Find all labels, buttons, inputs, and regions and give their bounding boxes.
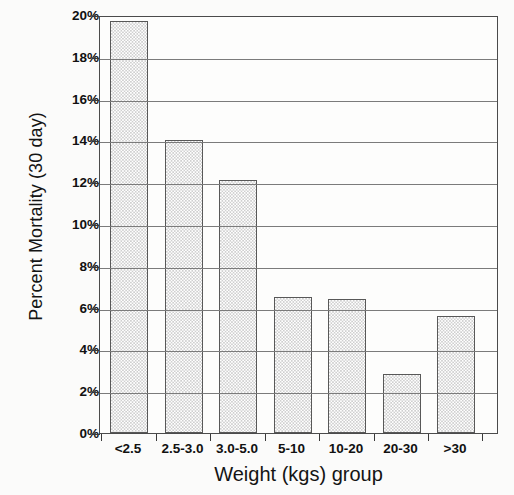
bar <box>383 374 421 433</box>
x-axis-title: Weight (kgs) group <box>99 463 498 486</box>
y-tick-label: 12% <box>47 176 99 190</box>
bar <box>437 316 475 433</box>
y-tick-label: 6% <box>47 302 99 316</box>
gridline <box>100 101 497 102</box>
gridline <box>100 393 497 394</box>
bar <box>219 180 257 433</box>
bars-layer <box>100 17 497 433</box>
gridline <box>100 351 497 352</box>
y-tick-label: 2% <box>47 385 99 399</box>
y-tick-label: 14% <box>47 135 99 149</box>
y-tick-label: 0% <box>47 427 99 441</box>
bar-chart: Percent Mortality (30 day) 0%2%4%6%8%10%… <box>0 0 514 495</box>
bar <box>328 299 366 433</box>
gridline <box>100 268 497 269</box>
y-tick-label: 16% <box>47 93 99 107</box>
x-tick-mark <box>374 434 375 441</box>
bar <box>110 21 148 433</box>
gridline <box>100 310 497 311</box>
x-tick-mark <box>319 434 320 441</box>
x-tick-mark <box>428 434 429 441</box>
y-tick-label: 18% <box>47 51 99 65</box>
y-tick-label: 20% <box>47 9 99 23</box>
y-tick-label: 8% <box>47 260 99 274</box>
bar <box>274 297 312 433</box>
gridline <box>100 142 497 143</box>
x-tick-mark <box>482 434 483 441</box>
x-tick-mark <box>156 434 157 441</box>
x-tick-mark <box>210 434 211 441</box>
x-tick-mark <box>101 434 102 441</box>
gridline <box>100 184 497 185</box>
x-axis-tick-labels: <2.52.5-3.03.0-5.05-1010-2020-30>30 <box>99 441 498 463</box>
gridline <box>100 226 497 227</box>
y-tick-label: 10% <box>47 218 99 232</box>
x-tick-label: >30 <box>415 441 495 458</box>
x-tick-mark <box>265 434 266 441</box>
gridline <box>100 59 497 60</box>
y-tick-label: 4% <box>47 344 99 358</box>
y-axis-ticks: 0%2%4%6%8%10%12%14%16%18%20% <box>38 16 99 434</box>
plot-area <box>99 16 498 434</box>
